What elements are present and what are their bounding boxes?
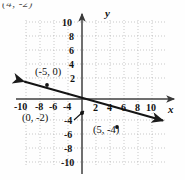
chart-figure: (4, -2) (0, 0, 185, 180)
x-tick-label: 8 (135, 103, 140, 113)
y-tick-label: 6 (69, 46, 74, 56)
x-tick-label: 2 (93, 103, 98, 113)
y-axis-label: y (105, 8, 110, 19)
y-tick-label: 4 (69, 60, 74, 70)
grid-lines (26, 20, 166, 166)
x-tick-label: 10 (146, 103, 156, 113)
x-axis-label: x (168, 104, 174, 115)
y-tick-label: -4 (64, 116, 72, 126)
y-tick-label: 8 (69, 32, 74, 42)
point-label-neg5-0: (-5, 0) (35, 67, 61, 78)
y-tick-label: -6 (64, 130, 72, 140)
coordinate-plane (0, 0, 185, 180)
x-tick-label: 4 (107, 103, 112, 113)
x-tick-label: -10 (14, 102, 27, 112)
y-tick-label: 10 (62, 18, 72, 28)
x-tick-label: -6 (49, 102, 57, 112)
y-tick-label: -8 (64, 144, 72, 154)
y-tick-label: -10 (61, 158, 74, 168)
x-tick-label: -4 (63, 102, 71, 112)
y-tick-label: 2 (70, 74, 75, 84)
point-label-5-neg4: (5, -4) (93, 125, 119, 136)
x-tick-label: -8 (35, 102, 43, 112)
x-tick-label: 6 (121, 103, 126, 113)
point-label-0-neg2: (0, -2) (22, 113, 48, 124)
data-point (45, 83, 49, 87)
